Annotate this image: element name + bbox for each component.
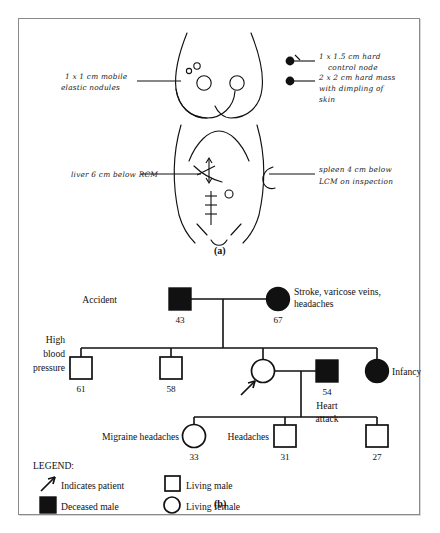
pedigree-node-g2-spouse[interactable] xyxy=(316,360,338,382)
label-g2-spouse-line1: Heart xyxy=(316,400,338,411)
annotation-spleen-line1: spleen 4 cm below xyxy=(319,165,392,174)
panel-a-drawing: 1 x 1 cm mobile elastic nodules 1 x 1.5 … xyxy=(19,19,421,257)
pedigree-chart: Accident Accident 43 Stroke, varicose ve… xyxy=(19,257,421,516)
label-g1-father: Accident xyxy=(82,294,117,305)
left-breast-nipple xyxy=(197,76,211,90)
annotation-left-breast-line2: elastic nodules xyxy=(61,83,120,92)
legend-title: LEGEND: xyxy=(33,460,74,471)
label-g3-child2: Headaches xyxy=(227,431,269,442)
inguinal-creases xyxy=(197,224,241,235)
label-g2-child4: Infancy xyxy=(392,366,421,377)
label-g2-child1-line3: pressure xyxy=(33,362,65,373)
legend-filled-square-icon xyxy=(40,497,56,513)
pedigree-node-g2-patient[interactable] xyxy=(252,360,275,383)
panel-a-label: (a) xyxy=(214,245,226,257)
age-g3-child1: 33 xyxy=(189,452,199,462)
label-g2-spouse-line2: attack xyxy=(316,413,339,424)
panel-b-label: (b) xyxy=(214,498,226,510)
liver-edge-marking xyxy=(194,158,222,183)
label-g1-mother-line1: Stroke, varicose veins, xyxy=(294,286,381,297)
label-g3-child1: Migraine headaches xyxy=(102,431,179,442)
panel-b-pedigree: Accident Accident 43 Stroke, varicose ve… xyxy=(19,257,421,516)
age-g2-child1: 61 xyxy=(76,384,86,394)
pedigree-node-g3-child1[interactable] xyxy=(183,425,206,448)
annotation-right-breast-mass-line3: skin xyxy=(319,95,335,104)
spleen-edge-marking xyxy=(263,167,275,189)
figure-frame: 1 x 1 cm mobile elastic nodules 1 x 1.5 … xyxy=(18,18,420,515)
label-g2-child1-line1: High xyxy=(46,334,65,345)
age-g1-father: 43 xyxy=(175,315,185,325)
pedigree-node-g2-child4[interactable] xyxy=(366,360,389,383)
annotation-right-breast-mass-line2: with dimpling of xyxy=(319,84,385,93)
chest-outline xyxy=(176,33,263,118)
age-g2-child2: 58 xyxy=(166,384,176,394)
annotation-left-breast-line1: 1 x 1 cm mobile xyxy=(65,72,128,81)
annotation-liver: liver 6 cm below RCM xyxy=(71,170,158,179)
label-g1-mother-line2: headaches xyxy=(294,298,334,309)
legend-label-living-male: Living male xyxy=(186,480,233,491)
age-g2-spouse: 54 xyxy=(322,387,332,397)
right-breast-lesion-markers xyxy=(286,55,315,85)
legend-label-deceased-male: Deceased male xyxy=(61,501,119,512)
pedigree-node-g3-child2[interactable] xyxy=(274,425,296,447)
annotation-spleen-line2: LCM on inspection xyxy=(318,177,393,186)
annotation-right-breast-node-line2: control node xyxy=(328,63,378,72)
right-breast-nipple xyxy=(230,76,244,90)
legend-arrow-icon xyxy=(41,477,55,491)
pedigree-node-g2-child2[interactable] xyxy=(160,357,182,379)
label-g2-child1-line2: blood xyxy=(43,348,65,359)
pedigree-node-g2-child1[interactable] xyxy=(70,357,92,379)
abdomen-outline xyxy=(174,125,264,243)
pedigree-node-g3-child3[interactable] xyxy=(366,425,388,447)
age-g3-child2: 31 xyxy=(280,452,290,462)
age-g3-child3: 27 xyxy=(372,452,382,462)
annotation-right-breast-mass-line1: 2 x 2 cm hard mass xyxy=(318,73,396,82)
patient-indicator-arrow xyxy=(241,381,255,395)
annotation-right-breast-node-line1: 1 x 1.5 cm hard xyxy=(319,52,381,61)
left-breast-nodules xyxy=(186,63,200,74)
pedigree-node-g1-mother[interactable] xyxy=(267,288,290,311)
umbilicus xyxy=(225,190,233,198)
surgical-scar xyxy=(205,191,217,225)
pedigree-node-g1-father[interactable] xyxy=(169,288,191,310)
age-g1-mother: 67 xyxy=(273,315,283,325)
legend-label-indicates-patient: Indicates patient xyxy=(61,480,124,491)
panel-a-physical-assessment: 1 x 1 cm mobile elastic nodules 1 x 1.5 … xyxy=(19,19,421,257)
legend-open-circle-icon xyxy=(164,497,180,513)
legend-open-square-icon xyxy=(165,476,180,491)
